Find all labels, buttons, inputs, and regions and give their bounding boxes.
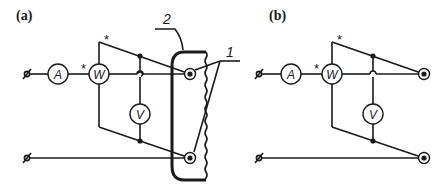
ammeter-icon: A [281,64,301,84]
polarity-mark-current: * [81,61,86,76]
source-terminal-top [23,69,31,79]
source-terminal-top [255,69,263,79]
voltmeter-icon: V [363,104,383,124]
device-terminal-top [185,69,196,80]
wattmeter-icon: W [89,64,109,84]
callout-housing: 2 [162,11,171,27]
callout-terminals: 1 [226,44,234,60]
polarity-mark-voltage: * [337,32,342,47]
panel-b-label: (b) [269,8,286,24]
device-terminal-top [419,69,430,80]
voltmeter-icon: V [130,104,150,124]
device-terminal-bottom [185,153,196,164]
ammeter-icon: A [48,64,68,84]
polarity-mark-current: * [314,61,319,76]
device-terminal-bottom [419,153,430,164]
svg-text:V: V [136,108,145,122]
circuit-diagram: (a) A W [0,0,447,192]
svg-text:A: A [286,68,295,82]
panel-a-label: (a) [16,8,33,24]
svg-text:V: V [369,108,378,122]
svg-text:A: A [53,68,62,82]
svg-text:W: W [326,68,339,82]
panel-a: (a) A W [16,8,240,180]
panel-b: (b) A W V [255,8,430,164]
source-terminal-bottom [255,153,263,163]
polarity-mark-voltage: * [104,32,109,47]
svg-text:W: W [93,68,106,82]
wattmeter-icon: W [322,64,342,84]
source-terminal-bottom [23,153,31,163]
